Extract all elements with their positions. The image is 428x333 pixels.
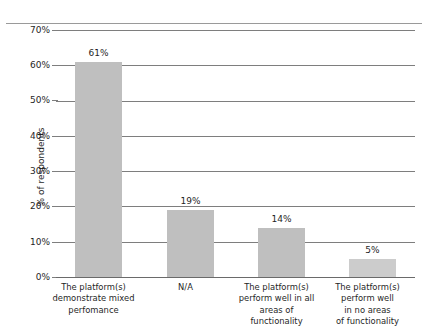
category-line: demonstrate mixed <box>45 293 142 304</box>
category-line: N/A <box>137 282 234 293</box>
category-line: perform well <box>319 293 416 304</box>
category-line: perfomance <box>45 305 142 316</box>
category-line: areas of <box>228 305 325 316</box>
bar-item[interactable] <box>167 210 214 277</box>
header-divider <box>6 23 422 24</box>
y-tick-label-30: 30% <box>8 166 50 176</box>
chart-title-clipped <box>0 0 428 4</box>
category-line: The platform(s) <box>319 282 416 293</box>
x-axis-category-label-2: N/A <box>137 282 234 293</box>
x-axis-category-label-1: The platform(s) demonstrate mixed perfom… <box>45 282 142 316</box>
category-line: in no areas <box>319 305 416 316</box>
bar-value-label: 5% <box>349 245 396 255</box>
category-line: The platform(s) <box>45 282 142 293</box>
y-tick-label-40: 40% <box>8 131 50 141</box>
bar-item[interactable] <box>258 228 305 277</box>
x-axis-category-label-3: The platform(s) perform well in all area… <box>228 282 325 328</box>
bar-value-label: 14% <box>258 214 305 224</box>
category-line: perform well in all <box>228 293 325 304</box>
y-tick-label-20: 20% <box>8 201 50 211</box>
bar-chart: % of respondents 70% 60% 50% 40% 30% 20%… <box>0 0 428 333</box>
gridline-baseline-0 <box>56 277 415 278</box>
category-line: functionality <box>228 316 325 327</box>
bar-item[interactable] <box>75 62 122 277</box>
gridline-70 <box>56 30 415 31</box>
y-tick-label-60: 60% <box>8 60 50 70</box>
x-axis-category-label-4: The platform(s) perform well in no areas… <box>319 282 416 328</box>
bar-value-label: 61% <box>75 48 122 58</box>
y-tick-label-10: 10% <box>8 237 50 247</box>
category-line: The platform(s) <box>228 282 325 293</box>
bar-value-label: 19% <box>167 196 214 206</box>
y-tick-label-50: 50% <box>8 95 50 105</box>
bar-item[interactable] <box>349 259 396 277</box>
y-tick-label-0: 0% <box>8 272 50 282</box>
y-tick-label-70: 70% <box>8 25 50 35</box>
category-line: of functionality <box>319 316 416 327</box>
plot-area: 61% 19% 14% 5% <box>56 30 415 277</box>
